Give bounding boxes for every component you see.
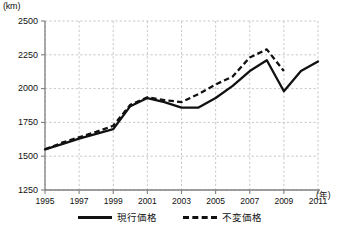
x-axis-tick-label: 2001 — [138, 196, 157, 206]
legend-item-constant-price: 不変価格 — [183, 212, 262, 223]
x-axis-tick-label: 2005 — [206, 196, 225, 206]
x-axis-tick-label: 2003 — [172, 196, 191, 206]
data-series-group — [45, 49, 318, 149]
chart-legend: 現行価格 不変価格 — [0, 212, 339, 223]
x-axis-tick-label: 1999 — [104, 196, 123, 206]
x-axis-tick-label: 1997 — [70, 196, 89, 206]
y-axis-tick-label: 1250 — [18, 185, 38, 195]
legend-item-current-price: 現行価格 — [78, 212, 157, 223]
y-axis-tick-label: 2250 — [18, 50, 38, 60]
x-axis-tick-label: 2007 — [240, 196, 259, 206]
series-line-constant-price — [45, 49, 284, 149]
line-chart: (km) 125015001750200022502500 1995199719… — [0, 0, 339, 233]
legend-swatch-solid-icon — [78, 216, 112, 219]
x-axis-tick-label: 1995 — [36, 196, 55, 206]
x-axis-tick-labels: 199519971999200120032005200720092011 — [36, 196, 328, 206]
chart-plot-area: 125015001750200022502500 199519971999200… — [0, 0, 339, 233]
legend-label-constant-price: 不変価格 — [222, 212, 262, 223]
y-axis-tick-label: 2500 — [18, 16, 38, 26]
legend-label-current-price: 現行価格 — [117, 212, 157, 223]
legend-swatch-dashed-icon — [183, 216, 217, 219]
y-axis-tick-label: 2000 — [18, 83, 38, 93]
gridlines — [45, 21, 318, 190]
x-axis-tick-label: 2009 — [274, 196, 293, 206]
x-axis-unit-label: (年) — [316, 190, 331, 200]
y-axis-tick-label: 1750 — [18, 117, 38, 127]
y-axis-tick-label: 1500 — [18, 151, 38, 161]
y-axis-tick-labels: 125015001750200022502500 — [18, 16, 38, 195]
